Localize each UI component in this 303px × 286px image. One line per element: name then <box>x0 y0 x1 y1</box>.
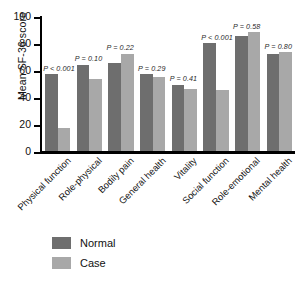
legend-label: Case <box>80 257 106 269</box>
bar-case[interactable] <box>279 52 292 151</box>
y-tick-label: 0 <box>25 145 31 157</box>
y-tick-0: 0 <box>34 152 40 154</box>
bar-case[interactable] <box>184 89 197 151</box>
plot-area: 020406080100 P < 0.001P = 0.10P = 0.22P … <box>40 16 295 153</box>
bar-group: P < 0.001 <box>200 16 232 151</box>
y-tick-label: 20 <box>19 118 31 130</box>
legend-swatch <box>52 257 71 269</box>
p-value-annotation: P = 0.29 <box>138 64 166 73</box>
bar-normal[interactable] <box>235 36 248 151</box>
bar-group: P = 0.58 <box>232 16 264 151</box>
y-tick-label: 60 <box>19 64 31 76</box>
y-tick-60: 60 <box>34 71 40 73</box>
y-tick-80: 80 <box>34 44 40 46</box>
x-axis-line <box>40 151 295 154</box>
bars-layer: P < 0.001P = 0.10P = 0.22P = 0.29P = 0.4… <box>42 16 295 151</box>
bar-case[interactable] <box>248 32 261 151</box>
bar-group: P = 0.80 <box>263 16 295 151</box>
p-value-annotation: P = 0.80 <box>265 42 293 51</box>
y-tick-100: 100 <box>34 17 40 19</box>
p-value-annotation: P = 0.10 <box>75 54 103 63</box>
bar-normal[interactable] <box>45 74 58 151</box>
bar-group: P < 0.001 <box>42 16 74 151</box>
legend-item-normal[interactable]: Normal <box>52 233 212 253</box>
p-value-annotation: P = 0.58 <box>233 22 261 31</box>
y-tick-label: 80 <box>19 37 31 49</box>
bar-normal[interactable] <box>203 43 216 151</box>
y-tick-40: 40 <box>34 98 40 100</box>
p-value-annotation: P = 0.41 <box>170 74 198 83</box>
bar-normal[interactable] <box>77 65 90 151</box>
p-value-annotation: P < 0.001 <box>201 33 233 42</box>
x-axis-category-labels: Physical functionRole-physicalBodily pai… <box>40 155 303 225</box>
p-value-annotation: P < 0.001 <box>43 64 75 73</box>
bar-case[interactable] <box>121 54 134 151</box>
legend-label: Normal <box>80 237 115 249</box>
y-tick-label: 100 <box>13 10 31 22</box>
bar-case[interactable] <box>153 77 166 151</box>
bar-normal[interactable] <box>267 54 280 151</box>
bar-normal[interactable] <box>108 63 121 151</box>
bar-case[interactable] <box>89 79 102 151</box>
y-tick-20: 20 <box>34 125 40 127</box>
bar-group: P = 0.41 <box>169 16 201 151</box>
y-tick-label: 40 <box>19 91 31 103</box>
legend-swatch <box>52 237 71 249</box>
legend-item-case[interactable]: Case <box>52 253 212 273</box>
chart-legend: NormalCase <box>52 233 212 273</box>
bar-normal[interactable] <box>140 74 153 151</box>
bar-case[interactable] <box>58 128 71 151</box>
bar-normal[interactable] <box>172 85 185 151</box>
sf36-bar-chart: Mean SF-36 score 020406080100 P < 0.001P… <box>0 0 303 286</box>
bar-group: P = 0.29 <box>137 16 169 151</box>
bar-group: P = 0.10 <box>74 16 106 151</box>
bar-case[interactable] <box>216 90 229 151</box>
p-value-annotation: P = 0.22 <box>106 43 134 52</box>
bar-group: P = 0.22 <box>105 16 137 151</box>
